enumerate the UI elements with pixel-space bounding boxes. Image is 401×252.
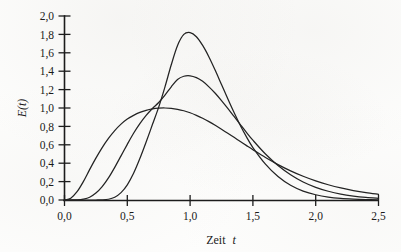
y-tick-label: 1,2: [40, 84, 55, 97]
y-tick-label: 2,0: [40, 10, 55, 23]
x-axis-title-variable: t: [232, 233, 236, 247]
curve-narrow-peak-1.82: [65, 32, 379, 200]
y-axis-title: E(t): [15, 99, 29, 119]
x-tick-label: 2,0: [309, 210, 324, 223]
y-tick-label: 0,2: [40, 176, 55, 189]
x-tick-label: 0,0: [57, 210, 72, 223]
y-tick-label: 0,4: [40, 157, 55, 170]
curve-group: [65, 32, 379, 200]
residence-time-chart: 0,0 0,2 0,4 0,6 0,8 1,0 1,2 1,4 1,6 1,8 …: [0, 0, 401, 252]
y-axis-tick-labels: 0,0 0,2 0,4 0,6 0,8 1,0 1,2 1,4 1,6 1,8 …: [40, 10, 55, 207]
x-tick-label: 0,5: [120, 210, 135, 223]
y-tick-label: 0,0: [40, 194, 55, 207]
y-tick-label: 0,8: [40, 121, 55, 134]
x-axis-title-text: Zeit: [206, 233, 226, 247]
x-tick-label: 2,5: [371, 210, 386, 223]
x-axis-tick-labels: 0,0 0,5 1,0 1,5 2,0 2,5: [57, 210, 386, 223]
curve-medium-peak-1.35: [65, 76, 379, 200]
y-tick-label: 1,0: [40, 102, 55, 115]
y-axis-title-text: E(t): [15, 99, 29, 119]
x-tick-label: 1,0: [183, 210, 198, 223]
y-tick-label: 1,6: [40, 47, 55, 60]
figure-panel: 0,0 0,2 0,4 0,6 0,8 1,0 1,2 1,4 1,6 1,8 …: [0, 0, 401, 252]
y-tick-label: 0,6: [40, 139, 55, 152]
x-axis-title: Zeit t: [206, 233, 236, 247]
y-tick-label: 1,8: [40, 29, 55, 42]
curve-broad-peak-1.0: [65, 108, 379, 200]
x-tick-label: 1,5: [246, 210, 261, 223]
y-tick-label: 1,4: [40, 65, 55, 78]
